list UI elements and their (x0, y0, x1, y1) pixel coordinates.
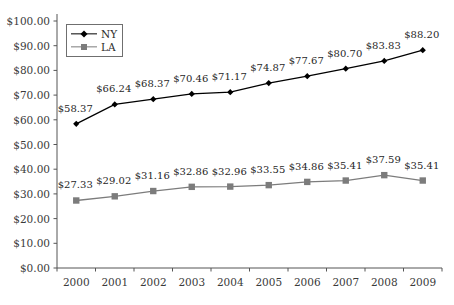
data-point-label-ny: $88.20 (404, 29, 439, 40)
data-marker-ny (227, 89, 233, 95)
data-marker-la (150, 188, 156, 194)
y-axis-tick-label: $30.00 (0, 188, 50, 200)
y-axis-tick-label: $70.00 (0, 89, 50, 101)
data-point-label-ny: $68.37 (135, 78, 170, 89)
data-marker-ny (343, 66, 349, 72)
x-axis-tick-label: 2004 (217, 276, 244, 288)
data-marker-ny (150, 96, 156, 102)
y-axis-tick-label: $80.00 (0, 64, 50, 76)
legend-swatch-la (71, 41, 97, 52)
diamond-marker-icon (80, 30, 87, 37)
y-axis-tick-label: $60.00 (0, 114, 50, 126)
data-marker-ny (266, 80, 272, 86)
x-axis-tick-label: 2001 (101, 276, 128, 288)
data-marker-ny (381, 58, 387, 64)
data-point-label-la: $37.59 (366, 154, 401, 165)
data-marker-ny (112, 101, 118, 107)
x-axis-tick-label: 2000 (63, 276, 90, 288)
legend-item-la: LA (71, 40, 117, 53)
x-axis-tick-label: 2002 (140, 276, 167, 288)
data-point-label-la: $29.02 (96, 175, 131, 186)
data-point-label-la: $34.86 (289, 161, 324, 172)
x-axis-tick-label: 2007 (332, 276, 359, 288)
data-point-label-ny: $83.83 (366, 40, 401, 51)
x-axis-tick-label: 2008 (371, 276, 398, 288)
data-marker-ny (189, 91, 195, 97)
data-point-label-ny: $77.67 (289, 55, 324, 66)
chart-legend: NY LA (66, 24, 123, 57)
y-axis-tick-label: $10.00 (0, 237, 50, 249)
data-marker-ny (73, 121, 79, 127)
data-marker-la (420, 177, 426, 183)
data-marker-la (304, 179, 310, 185)
data-point-label-la: $32.96 (212, 166, 247, 177)
data-point-label-la: $35.41 (404, 160, 439, 171)
x-axis-tick-label: 2009 (409, 276, 436, 288)
data-point-label-la: $33.55 (250, 164, 285, 175)
data-marker-ny (420, 47, 426, 53)
data-point-label-ny: $71.17 (212, 71, 247, 82)
x-axis-tick-label: 2006 (294, 276, 321, 288)
legend-label-ny: NY (101, 28, 117, 40)
square-marker-icon (81, 44, 87, 50)
data-marker-la (381, 172, 387, 178)
data-marker-ny (304, 73, 310, 79)
line-chart: $0.00$10.00$20.00$30.00$40.00$50.00$60.0… (0, 0, 454, 305)
data-point-label-la: $32.86 (173, 166, 208, 177)
y-axis-tick-label: $50.00 (0, 139, 50, 151)
data-marker-la (343, 177, 349, 183)
legend-swatch-ny (71, 28, 97, 39)
y-axis-tick-label: $90.00 (0, 40, 50, 52)
data-point-label-la: $31.16 (135, 170, 170, 181)
legend-item-ny: NY (71, 27, 117, 40)
y-axis-tick-label: $40.00 (0, 163, 50, 175)
y-axis-tick-label: $20.00 (0, 213, 50, 225)
data-marker-la (73, 197, 79, 203)
data-marker-la (112, 193, 118, 199)
data-marker-la (266, 182, 272, 188)
data-marker-la (227, 183, 233, 189)
y-axis-tick-label: $0.00 (0, 262, 50, 274)
data-marker-la (189, 184, 195, 190)
x-axis-tick-label: 2005 (255, 276, 282, 288)
y-axis-tick-label: $100.00 (0, 15, 50, 27)
legend-label-la: LA (101, 41, 116, 53)
data-point-label-ny: $74.87 (250, 62, 285, 73)
data-point-label-ny: $66.24 (96, 83, 131, 94)
data-point-label-la: $35.41 (327, 160, 362, 171)
data-point-label-ny: $80.70 (327, 48, 362, 59)
data-point-label-ny: $70.46 (173, 73, 208, 84)
data-point-label-la: $27.33 (58, 179, 93, 190)
x-axis-tick-label: 2003 (178, 276, 205, 288)
data-point-label-ny: $58.37 (58, 103, 93, 114)
